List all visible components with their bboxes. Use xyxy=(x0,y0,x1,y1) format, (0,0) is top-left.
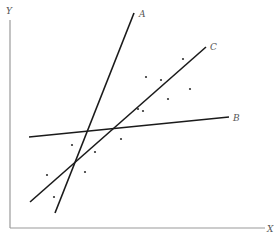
data-point xyxy=(137,108,139,110)
data-point xyxy=(94,151,96,153)
line-c xyxy=(30,47,206,202)
line-b-label: B xyxy=(232,113,240,123)
line-c-label: C xyxy=(210,42,217,52)
line-b xyxy=(29,117,229,137)
data-point xyxy=(182,58,184,60)
data-point xyxy=(160,79,162,81)
data-point xyxy=(167,98,169,100)
data-point xyxy=(142,110,144,112)
data-point xyxy=(189,88,191,90)
data-point xyxy=(84,171,86,173)
regression-lines-diagram: Y X A B C xyxy=(0,0,274,236)
x-axis-label: X xyxy=(266,224,274,234)
data-point xyxy=(71,144,73,146)
data-point xyxy=(53,196,55,198)
line-a-label: A xyxy=(138,9,146,19)
line-a xyxy=(55,13,134,213)
y-axis-label: Y xyxy=(6,6,13,16)
fitted-lines: A B C xyxy=(29,9,240,213)
data-point xyxy=(145,76,147,78)
diagram-svg: Y X A B C xyxy=(0,0,274,236)
data-point xyxy=(46,174,48,176)
data-point xyxy=(120,138,122,140)
